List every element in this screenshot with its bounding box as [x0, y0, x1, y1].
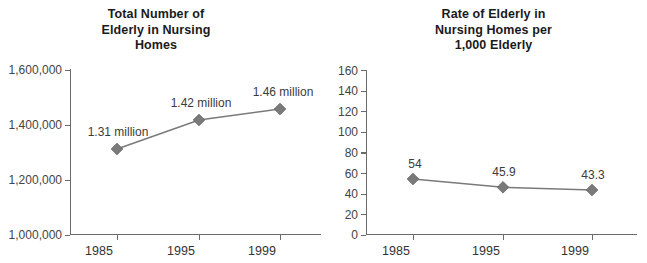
series-line-rate-of-elderly: [336, 0, 647, 263]
plot-area-total-elderly: 1,600,000 1,400,000 1,200,000 1,000,000 …: [0, 0, 336, 263]
data-label-right-1995: 45.9: [492, 165, 515, 179]
data-marker-left-1995: [193, 114, 205, 126]
data-label-right-1985: 54: [408, 157, 421, 171]
data-marker-left-1999: [274, 103, 286, 115]
series-line-total-elderly: [0, 0, 336, 263]
data-label-left-1995: 1.42 million: [171, 96, 232, 110]
plot-area-rate-of-elderly: 160 140 120 100 80 60 40 20 0 1985 1995 …: [336, 0, 647, 263]
chart-panel-total-elderly: Total Number of Elderly in Nursing Homes…: [0, 0, 336, 263]
data-marker-right-1999: [586, 184, 598, 196]
figure-container: Total Number of Elderly in Nursing Homes…: [0, 0, 647, 263]
data-label-left-1985: 1.31 million: [88, 125, 149, 139]
data-label-left-1999: 1.46 million: [253, 85, 314, 99]
data-marker-right-1985: [407, 173, 419, 185]
data-marker-left-1985: [111, 143, 123, 155]
data-marker-right-1995: [497, 182, 509, 194]
chart-panel-rate-of-elderly: Rate of Elderly in Nursing Homes per 1,0…: [336, 0, 647, 263]
data-label-right-1999: 43.3: [581, 168, 604, 182]
